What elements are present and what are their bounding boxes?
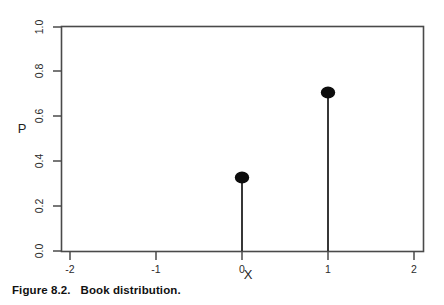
figure-container: 1.0 0.8 0.6 0.4 0.2 0.0 -2 -1 0 1 2 P X … bbox=[0, 0, 444, 305]
y-axis-title: P bbox=[14, 121, 30, 137]
y-tick-label-1-0: 1.0 bbox=[33, 14, 45, 40]
x-axis-title: X bbox=[236, 267, 260, 283]
data-point-x0 bbox=[235, 172, 249, 184]
y-tick-label-0-8: 0.8 bbox=[33, 58, 45, 84]
x-tick-label-neg1: -1 bbox=[144, 263, 168, 275]
x-tick-label-neg2: -2 bbox=[58, 263, 82, 275]
plot-area: 1.0 0.8 0.6 0.4 0.2 0.0 -2 -1 0 1 2 P X bbox=[0, 0, 444, 275]
y-tick-label-0-0: 0.0 bbox=[33, 238, 45, 264]
x-tick-label-2: 2 bbox=[402, 263, 426, 275]
y-tick-label-0-4: 0.4 bbox=[33, 148, 45, 174]
x-axis-ticks bbox=[70, 251, 414, 260]
data-point-x1 bbox=[321, 87, 335, 99]
x-tick-label-1: 1 bbox=[316, 263, 340, 275]
y-tick-label-0-6: 0.6 bbox=[33, 103, 45, 129]
y-tick-label-0-2: 0.2 bbox=[33, 193, 45, 219]
y-axis-ticks bbox=[53, 27, 61, 251]
chart-canvas bbox=[0, 0, 444, 275]
figure-caption: Figure 8.2. Book distribution. bbox=[12, 284, 181, 296]
